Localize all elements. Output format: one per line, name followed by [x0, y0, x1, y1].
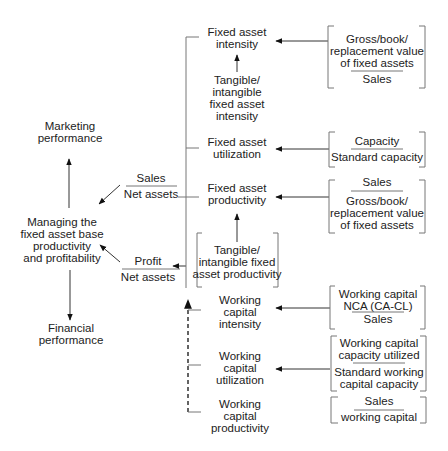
- svg-text:capital: capital: [223, 362, 256, 374]
- marketing-performance-node: Marketing performance: [38, 120, 103, 144]
- svg-text:intensity: intensity: [216, 38, 258, 50]
- svg-text:Managing the: Managing the: [27, 216, 97, 228]
- svg-text:performance: performance: [38, 132, 103, 144]
- svg-text:Sales: Sales: [137, 172, 166, 184]
- svg-text:Sales: Sales: [363, 73, 392, 85]
- svg-text:of fixed assets: of fixed assets: [340, 57, 414, 69]
- svg-text:intensity: intensity: [216, 110, 258, 122]
- svg-text:Fixed asset: Fixed asset: [208, 182, 268, 194]
- fixed-asset-productivity-node: Fixed asset productivity: [208, 182, 268, 206]
- svg-text:Standard working: Standard working: [334, 366, 424, 378]
- arrow-sales-to-center: [99, 185, 120, 204]
- svg-text:Tangible/: Tangible/: [214, 244, 261, 256]
- wc-intensity-node: Working capital intensity: [219, 294, 261, 330]
- svg-text:capital capacity: capital capacity: [340, 378, 419, 390]
- wc-productivity-formula: Sales working capital: [331, 395, 426, 423]
- svg-text:capital: capital: [223, 306, 256, 318]
- svg-text:Working: Working: [219, 398, 261, 410]
- svg-text:Sales: Sales: [363, 176, 392, 188]
- financial-performance-node: Financial performance: [39, 322, 104, 346]
- svg-text:productivity: productivity: [211, 422, 269, 434]
- svg-text:NCA (CA-CL): NCA (CA-CL): [343, 300, 412, 312]
- fixed-asset-intensity-node: Fixed asset intensity: [208, 26, 268, 50]
- svg-text:and profitability: and profitability: [23, 252, 101, 264]
- arrow-profit-to-center: [100, 245, 120, 262]
- profit-net-assets-ratio: Profit Net assets: [121, 255, 180, 283]
- svg-text:Working: Working: [219, 350, 261, 362]
- svg-text:utilization: utilization: [216, 374, 264, 386]
- tangible-intensity-node: Tangible/ intangible fixed asset intensi…: [210, 74, 266, 122]
- svg-text:working capital: working capital: [340, 411, 417, 423]
- diagram-canvas: Marketing performance Managing the fixed…: [0, 0, 448, 451]
- svg-text:performance: performance: [39, 334, 104, 346]
- svg-text:Fixed asset: Fixed asset: [208, 26, 268, 38]
- svg-text:Net assets: Net assets: [124, 188, 179, 200]
- svg-text:Sales: Sales: [364, 313, 393, 325]
- svg-text:Fixed asset: Fixed asset: [208, 136, 268, 148]
- svg-text:utilization: utilization: [213, 148, 261, 160]
- sales-net-assets-ratio: Sales Net assets: [124, 172, 179, 200]
- svg-text:Financial: Financial: [48, 322, 94, 334]
- svg-text:Gross/book/: Gross/book/: [346, 195, 409, 207]
- svg-text:Marketing: Marketing: [45, 120, 96, 132]
- svg-text:of fixed assets: of fixed assets: [340, 219, 414, 231]
- svg-text:Working: Working: [219, 294, 261, 306]
- fa-utilization-formula: Capacity Standard capacity: [329, 132, 425, 167]
- svg-text:Net assets: Net assets: [121, 271, 176, 283]
- wc-productivity-node: Working capital productivity: [211, 398, 269, 434]
- svg-text:Tangible/: Tangible/: [214, 74, 261, 86]
- svg-text:Sales: Sales: [365, 395, 394, 407]
- fa-intensity-formula: Gross/book/ replacement value of fixed a…: [328, 26, 425, 88]
- svg-text:asset productivity: asset productivity: [193, 268, 282, 280]
- svg-text:intensity: intensity: [219, 318, 261, 330]
- svg-text:Working capital: Working capital: [339, 288, 417, 300]
- wc-intensity-formula: Working capital NCA (CA-CL) Sales: [330, 286, 425, 329]
- svg-text:replacement value: replacement value: [330, 45, 424, 57]
- svg-text:Gross/book/: Gross/book/: [346, 33, 409, 45]
- wc-utilization-node: Working capital utilization: [216, 350, 264, 386]
- svg-text:capacity utilized: capacity utilized: [338, 349, 419, 361]
- wc-utilization-formula: Working capital capacity utilized Standa…: [331, 336, 426, 391]
- svg-text:fixed asset base: fixed asset base: [20, 228, 103, 240]
- fixed-asset-utilization-node: Fixed asset utilization: [208, 136, 268, 160]
- svg-text:Standard capacity: Standard capacity: [331, 151, 423, 163]
- svg-text:Capacity: Capacity: [355, 135, 400, 147]
- managing-fixed-asset-base-node: Managing the fixed asset base productivi…: [20, 216, 103, 264]
- svg-text:fixed asset: fixed asset: [210, 98, 266, 110]
- svg-text:intangible: intangible: [212, 86, 261, 98]
- svg-text:productivity: productivity: [33, 240, 91, 252]
- svg-text:Profit: Profit: [135, 255, 163, 267]
- svg-text:replacement value: replacement value: [330, 207, 424, 219]
- svg-text:Working capital: Working capital: [340, 337, 418, 349]
- fa-productivity-formula: Sales Gross/book/ replacement value of f…: [329, 176, 425, 233]
- svg-text:productivity: productivity: [208, 194, 266, 206]
- svg-text:intangible fixed: intangible fixed: [199, 256, 276, 268]
- svg-text:capital: capital: [223, 410, 256, 422]
